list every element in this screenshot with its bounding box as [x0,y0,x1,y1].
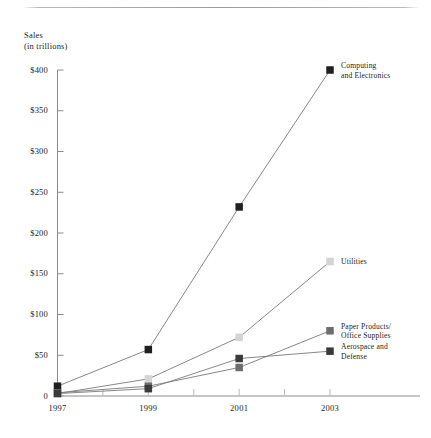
y-tick-label: $150 [4,268,48,278]
series-marker [54,382,62,390]
series-marker [326,327,334,335]
series-marker [145,385,153,393]
series-marker [326,258,334,266]
y-tick-label: 0 [4,391,48,401]
x-tick-label: 1997 [28,403,88,413]
series-label: Utilities [341,257,367,267]
series-marker [326,347,334,355]
x-tick-label: 2001 [209,403,269,413]
series-line [58,331,331,393]
y-tick-label: $200 [4,228,48,238]
y-tick-label: $50 [4,350,48,360]
y-tick-label: $400 [4,65,48,75]
series-label: Computing and Electronics [341,61,390,80]
series-marker [235,364,243,372]
y-tick-label: $100 [4,309,48,319]
series-line [58,70,331,386]
x-tick-label: 1999 [118,403,178,413]
chart-series-group [54,66,334,397]
line-chart: Sales (in trillions) $400$350$300$250$20… [0,0,431,438]
series-marker [54,390,62,398]
series-label: Aerospace and Defense [341,342,388,361]
series-marker [145,346,153,354]
y-tick-label: $350 [4,105,48,115]
series-marker [145,375,153,383]
x-tick-label: 2003 [300,403,360,413]
y-tick-label: $300 [4,146,48,156]
series-marker [235,355,243,363]
y-tick-label: $250 [4,187,48,197]
series-marker [326,66,334,74]
series-marker [235,203,243,211]
series-marker [235,334,243,342]
series-label: Paper Products/ Office Supplies [341,322,391,341]
